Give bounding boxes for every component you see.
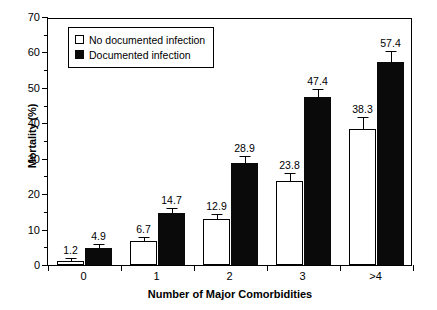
bar — [304, 97, 331, 265]
error-bar-cap — [284, 173, 295, 174]
y-tick-label: 10 — [28, 224, 40, 236]
bar-value-label: 4.9 — [91, 230, 106, 242]
error-bar — [318, 90, 319, 97]
bar-value-label: 28.9 — [234, 142, 254, 154]
y-tick-mark — [42, 17, 48, 18]
bar-value-label: 14.7 — [161, 194, 181, 206]
chart-legend: No documented infection Documented infec… — [68, 27, 214, 68]
bar — [349, 129, 376, 265]
error-bar — [245, 157, 246, 162]
bar-value-label: 38.3 — [352, 103, 372, 115]
x-category-label: 3 — [299, 270, 305, 282]
bar-value-label: 47.4 — [307, 75, 327, 87]
error-bar-cap — [138, 237, 149, 238]
error-bar-cap — [312, 89, 323, 90]
legend-item-documented-infection: Documented infection — [75, 47, 205, 62]
x-tick-mark — [48, 265, 49, 271]
x-category-label: 2 — [226, 270, 232, 282]
bar-value-label: 6.7 — [136, 223, 151, 235]
bar — [85, 248, 112, 265]
error-bar-cap — [385, 51, 396, 52]
y-tick-mark — [42, 230, 48, 231]
y-tick-label: 20 — [28, 188, 40, 200]
bar — [276, 181, 303, 265]
legend-swatch-open-icon — [75, 35, 84, 44]
error-bar — [172, 209, 173, 213]
y-tick-mark — [42, 194, 48, 195]
y-tick-minor-mark — [44, 247, 48, 248]
y-tick-minor-mark — [44, 106, 48, 107]
bar-value-label: 12.9 — [206, 200, 226, 212]
bar — [130, 241, 157, 265]
x-category-label: 0 — [80, 270, 86, 282]
x-category-label: 1 — [153, 270, 159, 282]
error-bar — [391, 52, 392, 61]
x-axis-title: Number of Major Comorbidities — [47, 288, 413, 300]
error-bar-cap — [93, 244, 104, 245]
bar-chart-figure: Mortality (%) 010203040506070 1.26.712.9… — [0, 0, 437, 310]
error-bar — [217, 215, 218, 219]
x-tick-mark — [267, 265, 268, 271]
y-tick-minor-mark — [44, 141, 48, 142]
bar-value-label: 57.4 — [380, 37, 400, 49]
y-tick-label: 40 — [28, 117, 40, 129]
y-tick-label: 70 — [28, 11, 40, 23]
legend-item-label: Documented infection — [89, 49, 191, 61]
error-bar-cap — [166, 208, 177, 209]
bar — [377, 62, 404, 265]
error-bar — [290, 174, 291, 181]
error-bar-cap — [211, 214, 222, 215]
y-tick-mark — [42, 159, 48, 160]
y-tick-label: 50 — [28, 82, 40, 94]
y-tick-label: 30 — [28, 153, 40, 165]
y-tick-label: 0 — [34, 259, 40, 271]
error-bar-cap — [357, 117, 368, 118]
y-tick-minor-mark — [44, 35, 48, 36]
x-tick-mark — [194, 265, 195, 271]
y-tick-label: 60 — [28, 46, 40, 58]
bar — [57, 261, 84, 265]
x-tick-mark — [121, 265, 122, 271]
y-tick-minor-mark — [44, 212, 48, 213]
x-tick-mark — [413, 265, 414, 271]
error-bar — [144, 238, 145, 241]
x-category-label: >4 — [369, 270, 382, 282]
bar — [158, 213, 185, 265]
error-bar — [363, 118, 364, 129]
bar — [231, 163, 258, 265]
y-tick-mark — [42, 123, 48, 124]
bar — [203, 219, 230, 265]
legend-swatch-filled-icon — [75, 50, 84, 59]
plot-area: 010203040506070 1.26.712.923.838.34.914.… — [47, 18, 412, 266]
bar-value-label: 1.2 — [63, 244, 78, 256]
bar-value-label: 23.8 — [279, 159, 299, 171]
y-tick-minor-mark — [44, 176, 48, 177]
legend-item-label: No documented infection — [89, 34, 205, 46]
legend-item-no-documented-infection: No documented infection — [75, 32, 205, 47]
error-bar — [99, 245, 100, 248]
error-bar-cap — [239, 156, 250, 157]
y-tick-mark — [42, 88, 48, 89]
y-tick-minor-mark — [44, 70, 48, 71]
x-tick-mark — [340, 265, 341, 271]
error-bar-cap — [65, 258, 76, 259]
y-tick-mark — [42, 52, 48, 53]
